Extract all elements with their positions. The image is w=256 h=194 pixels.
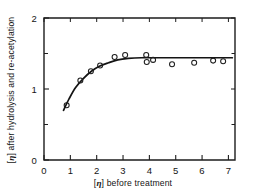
y-tick-label: 1 xyxy=(32,84,37,95)
y-axis-title: [η] after hydrolysis and re-acetylation xyxy=(6,17,16,164)
plot-frame xyxy=(44,18,235,160)
data-point-marker xyxy=(211,58,216,63)
data-point-marker xyxy=(221,59,226,64)
data-point-marker xyxy=(112,55,117,60)
scatter-plot: 01234567 012 [η] before treatment [η] af… xyxy=(0,0,256,194)
x-axis-tick-labels: 01234567 xyxy=(41,165,231,176)
x-tick-label: 2 xyxy=(94,165,99,176)
y-tick-label: 2 xyxy=(32,13,37,24)
y-axis-ticks xyxy=(44,18,235,160)
data-point-marker xyxy=(144,52,149,57)
data-point-marker xyxy=(144,60,149,65)
data-points xyxy=(64,52,225,107)
x-tick-label: 7 xyxy=(226,165,231,176)
x-tick-label: 0 xyxy=(41,165,46,176)
x-tick-label: 3 xyxy=(120,165,125,176)
axis-box xyxy=(44,18,235,160)
x-axis-title: [η] before treatment xyxy=(94,178,173,188)
chart-figure: 01234567 012 [η] before treatment [η] af… xyxy=(0,0,256,194)
x-tick-label: 6 xyxy=(199,165,204,176)
data-point-marker xyxy=(192,60,197,65)
data-point-marker xyxy=(123,52,128,57)
fit-curve xyxy=(64,58,233,111)
data-point-marker xyxy=(170,62,175,67)
y-tick-label: 0 xyxy=(32,155,37,166)
x-tick-label: 5 xyxy=(173,165,178,176)
y-axis-tick-labels: 012 xyxy=(32,13,37,166)
x-tick-label: 1 xyxy=(68,165,73,176)
x-axis-ticks xyxy=(44,18,228,160)
x-tick-label: 4 xyxy=(147,165,152,176)
